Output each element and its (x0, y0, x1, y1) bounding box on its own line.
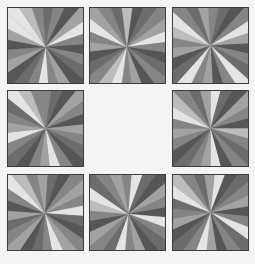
starburst-pattern-icon (8, 8, 83, 83)
grid-tile-r0c0[interactable] (7, 7, 84, 84)
starburst-pattern-icon (8, 175, 83, 250)
grid-tile-r0c2[interactable] (172, 7, 249, 84)
starburst-pattern-icon (173, 175, 248, 250)
grid-tile-r1c2[interactable] (172, 90, 249, 167)
grid-tile-r1c0[interactable] (7, 90, 84, 167)
starburst-pattern-icon (173, 8, 248, 83)
grid-tile-r2c2[interactable] (172, 174, 249, 251)
starburst-pattern-icon (173, 91, 248, 166)
starburst-pattern-icon (90, 175, 165, 250)
grid-tile-r2c1[interactable] (89, 174, 166, 251)
empty-center-cell[interactable] (89, 90, 166, 167)
grid-tile-r0c1[interactable] (89, 7, 166, 84)
starburst-pattern-icon (8, 91, 83, 166)
starburst-pattern-icon (90, 8, 165, 83)
grid-tile-r2c0[interactable] (7, 174, 84, 251)
image-grid (0, 0, 255, 264)
